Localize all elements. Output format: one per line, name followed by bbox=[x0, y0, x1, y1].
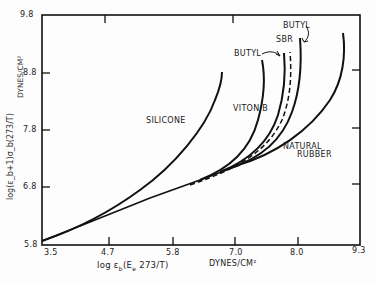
y-tick-label: 5.8 bbox=[24, 240, 38, 249]
plot-frame bbox=[42, 15, 360, 245]
label-silicone: SILICONE bbox=[146, 116, 186, 125]
label-butyl-left: BUTYL bbox=[234, 49, 261, 58]
y-tick-label: 8.8 bbox=[23, 68, 37, 77]
x-tick-label: 9.3 bbox=[352, 246, 366, 255]
chart-figure: 9.8 8.8 7.8 6.8 5.8 3.5 4.7 5.8 7.0 8.0 … bbox=[0, 0, 375, 283]
x-axis-units: DYNES/CM² bbox=[209, 259, 257, 268]
y-tick-label: 6.8 bbox=[23, 182, 37, 191]
x-tick-label: 3.5 bbox=[44, 248, 58, 257]
x-axis-label: log εb(Ee 273/T) bbox=[97, 260, 169, 272]
x-tick-label: 7.0 bbox=[229, 248, 243, 257]
x-tick-label: 4.7 bbox=[101, 248, 115, 257]
label-viton-b: VITON B bbox=[233, 104, 268, 113]
y-tick-label: 7.8 bbox=[23, 125, 37, 134]
label-sbr: SBR bbox=[276, 35, 293, 44]
label-rubber: RUBBER bbox=[297, 150, 332, 159]
x-tick-label: 5.8 bbox=[166, 248, 180, 257]
x-tick-label: 8.0 bbox=[290, 248, 304, 257]
y-axis-units: DYNES/CM² bbox=[16, 56, 25, 98]
label-butyl-right: BUTYL bbox=[283, 21, 310, 30]
y-axis-label: log(ε_b+1)σ_b(273/T) bbox=[6, 113, 15, 200]
y-tick-label: 9.8 bbox=[20, 10, 34, 19]
x-ticks bbox=[105, 15, 298, 245]
curve-viton-b bbox=[200, 60, 264, 180]
curve-silicone bbox=[42, 72, 222, 241]
